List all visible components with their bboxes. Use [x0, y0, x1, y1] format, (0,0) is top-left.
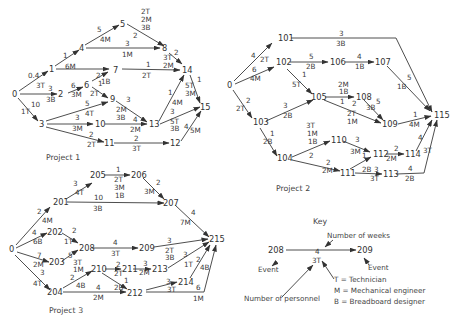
svg-text:3: 3 — [374, 165, 379, 174]
svg-text:3B: 3B — [366, 103, 376, 112]
svg-text:1B: 1B — [355, 62, 365, 71]
svg-text:2T: 2T — [260, 55, 270, 64]
svg-text:3T: 3T — [36, 81, 46, 90]
svg-text:3M: 3M — [71, 90, 82, 99]
svg-text:1: 1 — [168, 88, 173, 97]
svg-text:2B: 2B — [405, 174, 415, 183]
svg-text:1M: 1M — [193, 294, 204, 303]
svg-text:3T: 3T — [132, 144, 142, 153]
svg-text:3T: 3T — [423, 146, 433, 155]
event-node: 1 — [49, 64, 54, 74]
event-node: 209 — [139, 243, 155, 253]
svg-text:4M: 4M — [172, 98, 183, 107]
event-node: 104 — [277, 153, 293, 163]
event-node: 208 — [79, 243, 95, 253]
svg-text:4T: 4T — [75, 188, 85, 197]
svg-text:2M: 2M — [163, 61, 174, 70]
svg-text:2: 2 — [174, 48, 179, 57]
key-weeks-value: 4 — [315, 247, 320, 256]
svg-text:3: 3 — [355, 135, 360, 144]
event-node: 105 — [311, 92, 327, 102]
svg-text:4B: 4B — [200, 263, 210, 272]
svg-text:1T: 1T — [64, 237, 74, 246]
svg-text:4: 4 — [418, 133, 423, 142]
svg-text:1B: 1B — [397, 82, 407, 91]
svg-text:6: 6 — [196, 283, 201, 292]
svg-text:1T: 1T — [184, 260, 194, 269]
key-personnel-value: 3T — [312, 256, 322, 265]
key-to-event: 209 — [357, 245, 373, 255]
svg-text:2: 2 — [72, 226, 77, 235]
svg-text:3M: 3M — [144, 187, 155, 196]
event-node: 203 — [49, 257, 65, 267]
svg-text:4T: 4T — [85, 109, 95, 118]
event-node: 14 — [182, 65, 193, 75]
svg-text:1: 1 — [340, 97, 345, 106]
svg-text:4: 4 — [357, 52, 362, 61]
svg-text:4T: 4T — [33, 279, 43, 288]
svg-text:1: 1 — [362, 151, 367, 160]
key-personnel-label: Number of personnel — [244, 294, 320, 303]
key-event-right-label: Event — [368, 263, 389, 272]
event-node: 8 — [162, 43, 167, 53]
event-node: 3 — [39, 119, 44, 129]
svg-text:4: 4 — [191, 208, 196, 217]
event-node: 205 — [90, 170, 106, 180]
svg-text:2M: 2M — [130, 125, 141, 134]
svg-text:5: 5 — [376, 97, 381, 106]
event-node: 2 — [58, 89, 63, 99]
event-node: 10 — [95, 119, 106, 129]
svg-text:2T: 2T — [87, 140, 97, 149]
svg-text:3: 3 — [73, 179, 78, 188]
svg-text:1M: 1M — [122, 50, 133, 59]
event-node: 106 — [330, 57, 346, 67]
svg-text:1B: 1B — [115, 191, 125, 200]
event-node: 0 — [9, 244, 14, 254]
key-legend-breadboard: B = Breadboard designer — [334, 297, 425, 306]
svg-text:3: 3 — [40, 268, 45, 277]
event-node: 215 — [209, 234, 225, 244]
svg-text:4M: 4M — [42, 216, 53, 225]
svg-text:1T: 1T — [21, 107, 31, 116]
key-legend-technician: T = Technician — [333, 275, 387, 284]
event-node: 5 — [120, 19, 125, 29]
svg-text:4: 4 — [133, 115, 138, 124]
svg-text:2: 2 — [352, 99, 357, 108]
event-node: 0 — [12, 89, 17, 99]
svg-text:2: 2 — [134, 134, 139, 143]
svg-text:5: 5 — [97, 25, 102, 34]
svg-text:1: 1 — [116, 165, 121, 174]
event-node: 207 — [163, 198, 179, 208]
svg-text:2B: 2B — [114, 283, 124, 292]
svg-text:4: 4 — [184, 122, 189, 131]
legend-key: Key Number of weeks 4 208 209 3T Event E… — [244, 217, 425, 306]
event-node: 12 — [170, 138, 181, 148]
svg-text:4: 4 — [96, 283, 101, 292]
event-node: 114 — [405, 149, 421, 159]
event-node: 204 — [47, 287, 63, 297]
pert-network-diagram: 0 1 2 3 4 5 6 7 8 9 10 11 12 13 14 15 0.… — [0, 0, 452, 323]
event-node: 7 — [113, 65, 118, 75]
svg-text:1: 1 — [197, 75, 202, 84]
svg-text:4M: 4M — [250, 74, 261, 83]
event-node: 212 — [127, 288, 143, 298]
svg-text:1: 1 — [124, 276, 129, 285]
svg-text:3B: 3B — [46, 95, 56, 104]
svg-text:4B: 4B — [76, 281, 86, 290]
svg-text:3B: 3B — [336, 39, 346, 48]
event-node: 9 — [110, 94, 115, 104]
svg-text:3: 3 — [167, 236, 172, 245]
svg-text:2T: 2T — [236, 104, 246, 113]
svg-text:3: 3 — [143, 259, 148, 268]
svg-text:1B: 1B — [339, 87, 349, 96]
key-from-event: 208 — [268, 245, 284, 255]
svg-text:3: 3 — [183, 250, 188, 259]
event-node: 103 — [253, 117, 269, 127]
event-node: 13 — [149, 119, 160, 129]
svg-text:1: 1 — [302, 70, 307, 79]
svg-text:5: 5 — [407, 73, 412, 82]
svg-text:4: 4 — [113, 238, 118, 247]
svg-text:3B: 3B — [116, 113, 126, 122]
svg-text:2M: 2M — [93, 293, 104, 302]
event-node: 15 — [200, 102, 211, 112]
